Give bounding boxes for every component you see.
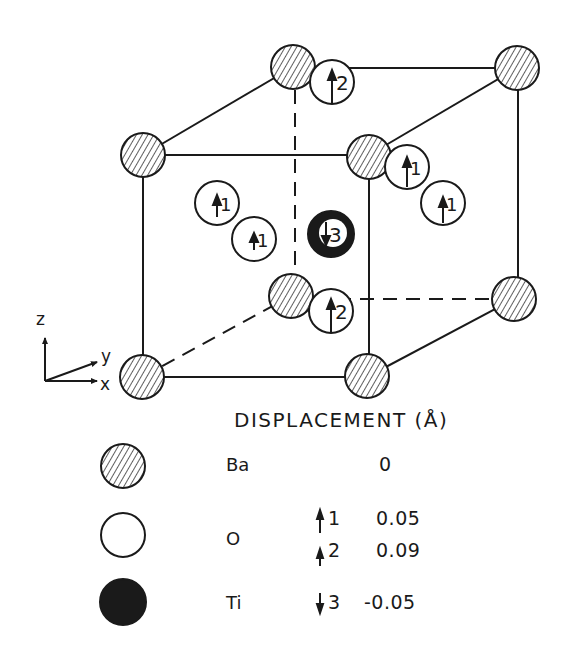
- legend-o-symbol: [101, 513, 145, 557]
- ba-atom: [345, 354, 389, 398]
- down-arrow-icon: [317, 593, 323, 613]
- legend-ba-symbol: [101, 444, 145, 488]
- legend-o-index-1: 1: [328, 507, 340, 529]
- o-right-lower-index: 1: [446, 194, 457, 215]
- legend-ti-value-3: -0.05: [364, 591, 416, 613]
- ti-index: 3: [329, 223, 342, 247]
- ba-atom: [495, 46, 539, 90]
- ba-atom: [120, 355, 164, 399]
- legend-arrows: [317, 510, 323, 613]
- ba-atom: [271, 45, 315, 89]
- legend-ti-index-3: 3: [328, 591, 340, 613]
- ba-atom: [492, 277, 536, 321]
- up-arrow-icon: [317, 510, 323, 533]
- legend-o-value-2: 0.09: [376, 539, 420, 561]
- unit-cell-diagram: 2 1 1 1 1 3 2 z y x: [0, 0, 567, 655]
- o-left-lower-index: 1: [257, 230, 268, 251]
- up-arrow-icon: [317, 549, 323, 566]
- legend-o-index-2: 2: [328, 539, 340, 561]
- ba-atom: [347, 135, 391, 179]
- legend-o-label: O: [226, 528, 240, 549]
- legend-ti-symbol: [100, 579, 146, 625]
- coordinate-axes: [45, 338, 97, 381]
- ba-atom: [269, 274, 313, 318]
- o-right-upper-index: 1: [410, 158, 421, 179]
- legend-o-value-1: 0.05: [376, 507, 420, 529]
- y-axis-label: y: [101, 346, 111, 366]
- legend-ba-value: 0: [379, 453, 392, 475]
- o-top-index: 2: [336, 71, 349, 95]
- o-left-upper-index: 1: [220, 194, 231, 215]
- legend-header: DISPLACEMENT (Å): [234, 408, 448, 432]
- o-bottom-index: 2: [335, 300, 348, 324]
- ba-atom: [121, 133, 165, 177]
- z-axis-label: z: [36, 309, 45, 329]
- x-axis-label: x: [100, 374, 110, 394]
- legend-ti-label: Ti: [226, 592, 241, 613]
- legend-ba-label: Ba: [226, 454, 249, 475]
